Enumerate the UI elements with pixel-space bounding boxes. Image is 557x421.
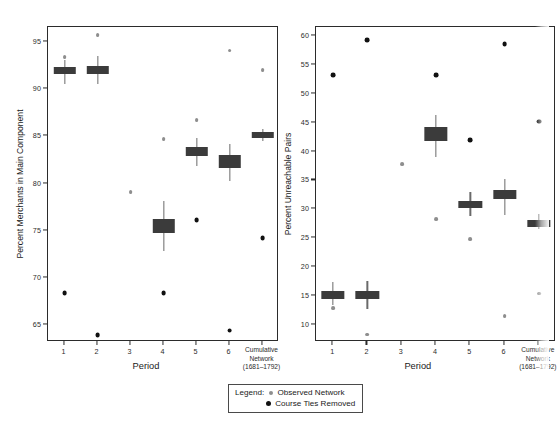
y-tick-mark bbox=[43, 229, 47, 230]
x-tick-label-line: Network bbox=[519, 355, 556, 364]
chart-panel-main-component: 65707580859095 123456CumulativeNetwork(1… bbox=[0, 0, 290, 421]
box-plot-box bbox=[356, 291, 379, 299]
box-plot-box bbox=[185, 147, 207, 156]
box-plot-box bbox=[424, 127, 447, 140]
x-tick-label-cumulative: CumulativeNetwork(1681–1792) bbox=[519, 346, 556, 372]
y-tick-label: 30 bbox=[291, 204, 309, 213]
x-tick-label-line: Cumulative bbox=[243, 346, 280, 355]
x-tick-label-line: (1681–1792) bbox=[519, 363, 556, 372]
y-tick-mark bbox=[311, 64, 315, 65]
x-tick-mark bbox=[332, 341, 333, 345]
y-tick-label: 15 bbox=[291, 290, 309, 299]
course-ties-removed-point bbox=[62, 291, 67, 296]
x-tick-mark bbox=[63, 341, 64, 345]
y-tick-label: 20 bbox=[291, 262, 309, 271]
x-tick-label: 5 bbox=[467, 347, 471, 356]
course-ties-removed-point bbox=[502, 41, 507, 46]
x-tick-label-cumulative: CumulativeNetwork(1681–1792) bbox=[243, 346, 280, 372]
course-ties-removed-point bbox=[95, 333, 100, 338]
x-axis-title-left: Period bbox=[133, 361, 160, 371]
y-tick-mark bbox=[311, 92, 315, 93]
box-plot-box bbox=[527, 220, 550, 226]
legend-title: Legend: bbox=[235, 388, 264, 399]
x-tick-mark bbox=[503, 341, 504, 345]
y-tick-label: 45 bbox=[291, 117, 309, 126]
x-tick-label-line: Network bbox=[243, 355, 280, 364]
y-tick-mark bbox=[43, 88, 47, 89]
observed-network-point bbox=[400, 162, 404, 166]
observed-network-point bbox=[228, 49, 232, 53]
y-axis-title-left: Percent Merchants in Main Component bbox=[15, 109, 25, 258]
observed-network-point bbox=[129, 190, 133, 194]
x-tick-mark bbox=[400, 341, 401, 345]
y-tick-label: 65 bbox=[23, 320, 41, 329]
x-tick-mark bbox=[261, 341, 262, 345]
course-ties-removed-point bbox=[434, 72, 439, 77]
x-tick-label-line: Cumulative bbox=[519, 346, 556, 355]
course-ties-removed-point bbox=[331, 72, 336, 77]
x-tick-label: 2 bbox=[364, 347, 368, 356]
box-plot-box bbox=[218, 155, 240, 167]
y-tick-mark bbox=[43, 41, 47, 42]
x-tick-label-line: (1681–1792) bbox=[243, 363, 280, 372]
y-tick-label: 40 bbox=[291, 146, 309, 155]
legend-row-observed: Legend: Observed Network bbox=[235, 388, 355, 399]
x-tick-label: 6 bbox=[227, 347, 231, 356]
x-tick-label: 5 bbox=[194, 347, 198, 356]
course-ties-removed-point bbox=[194, 218, 199, 223]
legend: Legend: Observed Network Course Ties Rem… bbox=[228, 384, 363, 413]
y-tick-label: 35 bbox=[291, 175, 309, 184]
observed-network-point bbox=[366, 333, 370, 337]
x-tick-mark bbox=[162, 341, 163, 345]
y-tick-label: 25 bbox=[291, 233, 309, 242]
x-tick-mark bbox=[96, 341, 97, 345]
legend-label-observed: Observed Network bbox=[277, 388, 344, 399]
y-tick-mark bbox=[311, 121, 315, 122]
x-tick-mark bbox=[195, 341, 196, 345]
y-tick-mark bbox=[311, 265, 315, 266]
x-tick-mark bbox=[129, 341, 130, 345]
y-axis-title-right: Percent Unreachable Pairs bbox=[283, 132, 293, 235]
x-tick-label: 1 bbox=[62, 347, 66, 356]
x-tick-label: 6 bbox=[502, 347, 506, 356]
y-tick-mark bbox=[311, 294, 315, 295]
box-plot-box bbox=[53, 67, 75, 75]
x-axis-title-right: Period bbox=[404, 361, 431, 371]
box-plot-box bbox=[152, 219, 174, 232]
x-tick-mark bbox=[469, 341, 470, 345]
y-tick-mark bbox=[311, 35, 315, 36]
legend-row-removed: Course Ties Removed bbox=[235, 399, 355, 410]
y-tick-mark bbox=[43, 182, 47, 183]
course-ties-removed-point bbox=[365, 38, 370, 43]
x-tick-mark bbox=[228, 341, 229, 345]
observed-network-point bbox=[195, 118, 199, 122]
y-tick-label: 55 bbox=[291, 60, 309, 69]
removed-dot-icon bbox=[266, 401, 271, 406]
y-tick-label: 75 bbox=[23, 225, 41, 234]
observed-network-point bbox=[503, 314, 507, 318]
legend-label-removed: Course Ties Removed bbox=[275, 399, 355, 410]
observed-network-point bbox=[331, 306, 335, 310]
observed-network-point bbox=[162, 137, 166, 141]
y-tick-label: 10 bbox=[291, 319, 309, 328]
observed-network-point bbox=[63, 55, 67, 59]
y-tick-label: 90 bbox=[23, 84, 41, 93]
x-tick-mark bbox=[434, 341, 435, 345]
box-plot-box bbox=[321, 291, 344, 299]
course-ties-removed-point bbox=[260, 236, 265, 241]
observed-dot-icon bbox=[269, 391, 273, 395]
y-tick-mark bbox=[43, 135, 47, 136]
y-tick-label: 50 bbox=[291, 88, 309, 97]
course-ties-removed-point bbox=[468, 138, 473, 143]
course-ties-removed-point bbox=[161, 291, 166, 296]
x-tick-mark bbox=[537, 341, 538, 345]
observed-network-point bbox=[537, 292, 541, 296]
x-tick-label: 4 bbox=[161, 347, 165, 356]
plot-area-right bbox=[315, 26, 555, 341]
y-tick-label: 80 bbox=[23, 178, 41, 187]
box-plot-box bbox=[86, 66, 108, 74]
box-plot-box bbox=[459, 201, 482, 208]
x-tick-label: 3 bbox=[128, 347, 132, 356]
observed-network-point bbox=[261, 68, 265, 72]
